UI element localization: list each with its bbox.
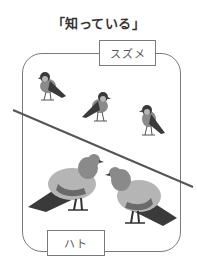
divider-line	[13, 110, 193, 187]
sparrow-label: スズメ	[99, 40, 156, 66]
sparrow-icon	[82, 92, 111, 121]
sparrow-icon	[139, 105, 165, 135]
pigeon-icon	[28, 154, 104, 212]
pigeon-label: ハト	[47, 230, 105, 256]
sparrow-icon	[38, 72, 66, 100]
